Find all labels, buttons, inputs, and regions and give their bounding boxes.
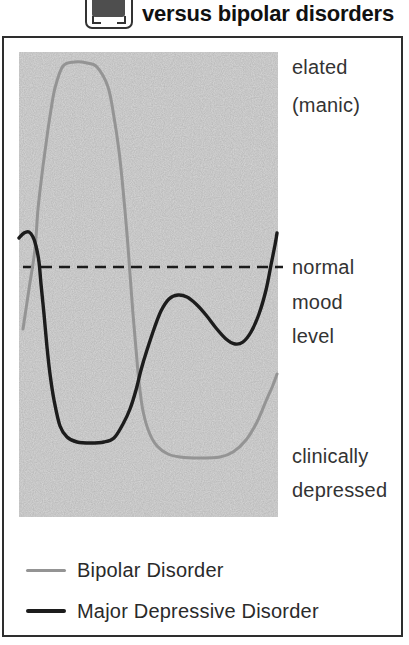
figure-title: versus bipolar disorders	[142, 1, 394, 27]
legend-item-bipolar: Bipolar Disorder	[26, 557, 224, 583]
figure-thumbnail-icon	[85, 0, 133, 29]
legend-item-mdd: Major Depressive Disorder	[26, 598, 319, 624]
figure-screenshot: { "header": { "title": "versus bipolar d…	[0, 0, 409, 645]
label-manic: (manic)	[292, 94, 360, 116]
label-mood: mood	[292, 291, 343, 313]
label-depressed: depressed	[292, 479, 387, 501]
label-normal: normal	[292, 256, 354, 278]
mood-plot-svg	[19, 52, 278, 517]
figure-card: elated (manic) normal mood level clinica…	[2, 36, 403, 637]
legend-label-mdd: Major Depressive Disorder	[77, 600, 319, 623]
figure-thumbnail-image	[92, 0, 125, 17]
crop-mark-right-icon	[117, 16, 126, 24]
label-elated: elated	[292, 56, 348, 78]
legend-label-bipolar: Bipolar Disorder	[77, 559, 224, 582]
crop-mark-left-icon	[92, 16, 101, 24]
label-clinically: clinically	[292, 445, 368, 467]
legend-swatch	[26, 609, 66, 613]
label-level: level	[292, 325, 334, 347]
mood-plot	[19, 52, 278, 517]
legend-swatch	[26, 569, 66, 572]
